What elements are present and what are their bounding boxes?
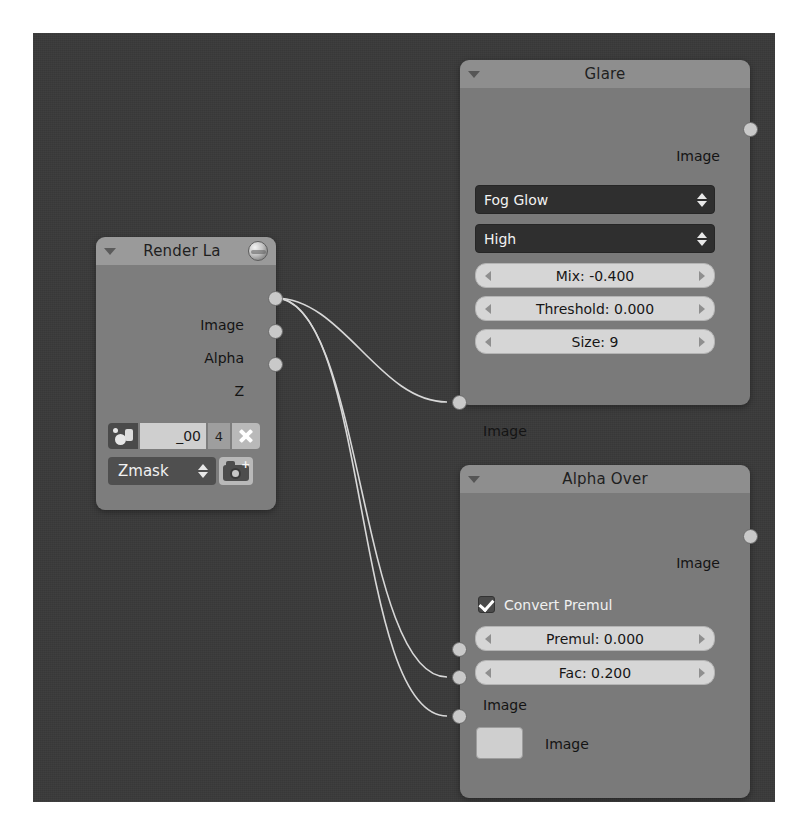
- arrow-right-icon[interactable]: [699, 271, 705, 281]
- renderlayers-layer-value: Zmask: [118, 462, 169, 480]
- node-alpha-over[interactable]: Alpha Over Image Convert Premul Premul: …: [460, 465, 750, 798]
- arrow-left-icon[interactable]: [485, 271, 491, 281]
- arrow-left-icon[interactable]: [485, 337, 491, 347]
- alphaover-input-fac-socket[interactable]: [452, 642, 467, 657]
- alphaover-output-image-socket[interactable]: [743, 529, 758, 544]
- renderlayers-layer-enum[interactable]: Zmask: [108, 457, 216, 485]
- alphaover-convert-premul-label: Convert Premul: [504, 597, 612, 613]
- glare-threshold-slider[interactable]: Threshold: 0.000: [475, 296, 715, 321]
- arrow-left-icon[interactable]: [485, 634, 491, 644]
- node-alpha-over-title: Alpha Over: [480, 470, 730, 488]
- node-alpha-over-body: Image Convert Premul Premul: 0.000 Fac: …: [460, 493, 750, 798]
- triangle-down-icon[interactable]: [468, 476, 480, 483]
- renderlayers-output-image-label: Image: [200, 317, 244, 333]
- checkbox-icon[interactable]: [478, 596, 495, 613]
- scene-icon: [108, 423, 138, 449]
- glare-quality-value: High: [484, 231, 516, 247]
- node-editor-canvas[interactable]: Glare Image Fog Glow High: [33, 33, 775, 802]
- alphaover-input-image2-label: Image: [545, 736, 589, 752]
- arrow-left-icon[interactable]: [485, 668, 491, 678]
- up-down-arrows-icon[interactable]: [697, 193, 707, 207]
- alphaover-premul-slider[interactable]: Premul: 0.000: [475, 626, 715, 651]
- glare-threshold-value: Threshold: 0.000: [536, 301, 654, 317]
- camera-add-icon[interactable]: +: [219, 457, 253, 485]
- alphaover-fac-slider[interactable]: Fac: 0.200: [475, 660, 715, 685]
- alphaover-input-image2-swatch[interactable]: [476, 727, 523, 759]
- node-glare[interactable]: Glare Image Fog Glow High: [460, 60, 750, 405]
- up-down-arrows-icon[interactable]: [697, 232, 707, 246]
- glare-output-image-socket[interactable]: [743, 122, 758, 137]
- alphaover-input-image2-socket[interactable]: [452, 709, 467, 724]
- link-renderlayers-to-alphaover-image1: [275, 298, 447, 677]
- renderlayers-output-alpha-label: Alpha: [204, 350, 244, 366]
- triangle-down-icon[interactable]: [104, 248, 116, 255]
- glare-mix-value: Mix: -0.400: [556, 268, 635, 284]
- triangle-down-icon[interactable]: [468, 71, 480, 78]
- alphaover-input-image1-socket[interactable]: [452, 670, 467, 685]
- renderlayers-layer-row[interactable]: Zmask +: [108, 457, 253, 485]
- alphaover-output-image-label: Image: [676, 555, 720, 571]
- arrow-right-icon[interactable]: [699, 304, 705, 314]
- glare-type-enum[interactable]: Fog Glow: [475, 185, 715, 214]
- glare-size-slider[interactable]: Size: 9: [475, 329, 715, 354]
- sphere-icon: [248, 241, 268, 261]
- node-render-layers[interactable]: Render La Image Alpha Z _00 4 Zmask: [96, 237, 276, 510]
- node-alpha-over-header[interactable]: Alpha Over: [460, 465, 750, 493]
- alphaover-convert-premul-row[interactable]: Convert Premul: [478, 596, 612, 613]
- alphaover-input-image1-label: Image: [483, 697, 527, 713]
- renderlayers-output-image-socket[interactable]: [268, 291, 283, 306]
- node-render-layers-body: Image Alpha Z _00 4 Zmask: [96, 265, 276, 510]
- glare-quality-enum[interactable]: High: [475, 224, 715, 253]
- node-render-layers-header[interactable]: Render La: [96, 237, 276, 265]
- glare-input-image-label: Image: [483, 423, 527, 439]
- renderlayers-scene-name-field[interactable]: _00: [140, 423, 206, 449]
- node-glare-body: Image Fog Glow High Mix: -0.400: [460, 88, 750, 405]
- alphaover-fac-value: Fac: 0.200: [559, 665, 631, 681]
- node-glare-title: Glare: [480, 65, 730, 83]
- arrow-right-icon[interactable]: [699, 337, 705, 347]
- glare-output-image-label: Image: [676, 148, 720, 164]
- node-glare-header[interactable]: Glare: [460, 60, 750, 88]
- renderlayers-output-z-label: Z: [234, 383, 244, 399]
- renderlayers-output-z-socket[interactable]: [268, 357, 283, 372]
- up-down-arrows-icon[interactable]: [198, 464, 208, 478]
- x-icon[interactable]: [232, 423, 260, 449]
- glare-type-value: Fog Glow: [484, 192, 548, 208]
- link-renderlayers-to-alphaover-image2: [275, 298, 447, 716]
- link-renderlayers-to-glare: [275, 298, 447, 402]
- arrow-right-icon[interactable]: [699, 634, 705, 644]
- glare-input-image-socket[interactable]: [452, 395, 467, 410]
- glare-mix-slider[interactable]: Mix: -0.400: [475, 263, 715, 288]
- renderlayers-scene-users-count[interactable]: 4: [208, 423, 230, 449]
- alphaover-premul-value: Premul: 0.000: [546, 631, 644, 647]
- arrow-left-icon[interactable]: [485, 304, 491, 314]
- glare-size-value: Size: 9: [572, 334, 619, 350]
- arrow-right-icon[interactable]: [699, 668, 705, 678]
- renderlayers-output-alpha-socket[interactable]: [268, 324, 283, 339]
- node-render-layers-title: Render La: [116, 242, 248, 260]
- renderlayers-scene-datablock[interactable]: _00 4: [108, 423, 260, 449]
